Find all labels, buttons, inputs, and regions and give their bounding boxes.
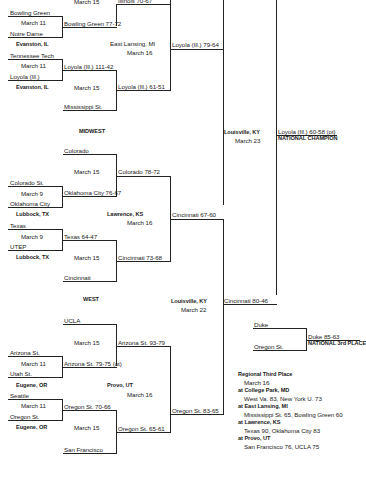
bracket-line [170, 346, 171, 432]
bracket-line [223, 304, 277, 305]
region-label-midwest: MIDWEST [79, 128, 105, 135]
bracket-line [117, 261, 171, 262]
bracket-line [8, 59, 63, 60]
game-result: Oregon St. 65-61 [118, 425, 165, 432]
regional-third-title: Regional Third Place [238, 371, 292, 378]
game-date: March 15 [74, 168, 99, 175]
game-date: March 15 [74, 424, 99, 431]
midwest-regional-site: Lawrence, KS [107, 211, 143, 218]
regional-third-result: San Francisco 76, UCLA 75 [244, 443, 319, 450]
bracket-line [63, 196, 117, 197]
game-date: March 11 [21, 402, 46, 409]
regional-third-site: at Provo, UT [238, 435, 270, 442]
bracket-line [63, 453, 117, 454]
bracket-line [170, 0, 171, 90]
game-date: March 9 [21, 233, 43, 240]
bracket-line [63, 154, 117, 155]
bracket-line [8, 16, 63, 17]
game-result: Loyola (Ill.) 111-42 [64, 63, 113, 70]
game-date: March 11 [21, 19, 46, 26]
bracket-line [8, 229, 63, 230]
team-name: Bowling Green [10, 9, 50, 16]
east-final-result: Loyola (Ill.) 79-64 [172, 41, 219, 48]
game-date: March 15 [74, 84, 99, 91]
team-name: Colorado St. [10, 179, 44, 186]
regional-third-site: at College Park, MD [238, 387, 289, 394]
bracket-line [8, 207, 63, 208]
regional-third-site: at Lawrence, KS [238, 419, 280, 426]
team-name: Utah St. [10, 370, 32, 377]
game-date: March 11 [21, 360, 46, 367]
game-result: Oregon St. 70-66 [64, 403, 111, 410]
site-label: Lubbock, TX [16, 211, 49, 218]
champ-date: March 23 [235, 137, 260, 144]
team-name: UCLA [64, 317, 80, 324]
east-r0-date: March 15 [74, 0, 99, 5]
game-result: Oklahoma City 76-67 [64, 189, 121, 196]
game-date: March 15 [74, 339, 99, 346]
bracket-line [8, 250, 63, 251]
semi-site: Louisville, KY [171, 298, 207, 305]
team-name: San Francisco [64, 446, 103, 453]
regional-third-date: March 16 [244, 379, 269, 386]
bracket-line [8, 356, 63, 357]
bracket-line [8, 399, 63, 400]
team-name: Cincinnati [64, 274, 91, 281]
site-label: Evanston, IL [16, 84, 49, 91]
team-name: Seattle [10, 392, 29, 399]
site-label: Lubbock, TX [16, 254, 49, 261]
bracket-line [63, 281, 117, 282]
champ-site: Louisville, KY [224, 129, 260, 136]
bracket-line [8, 420, 63, 421]
game-date: March 11 [21, 62, 46, 69]
regional-third-result: Texas 90, Oklahoma City 83 [244, 427, 320, 434]
bracket-line [253, 350, 307, 351]
east-regional-site: East Lansing, MI [110, 40, 155, 47]
team-name: Oregon St. [254, 343, 283, 350]
game-result: Colorado 78-72 [118, 168, 160, 175]
bracket-line [63, 367, 117, 368]
bracket-line [63, 410, 117, 411]
game-result: Cincinnati 73-68 [118, 254, 162, 261]
site-label: Eugene, OR [16, 382, 47, 389]
site-label: Eugene, OR [16, 424, 47, 431]
bracket-line [63, 27, 117, 28]
bracket-line [117, 346, 171, 347]
team-name: Mississippi St. [64, 103, 102, 110]
game-result: Arizona St. 79-75 (ot) [64, 360, 122, 367]
bracket-line [8, 186, 63, 187]
semi-date: March 22 [181, 306, 206, 313]
team-name: Oklahoma City [10, 200, 50, 207]
semi-result: Cincinnati 80-46 [224, 297, 268, 304]
game-result: Texas 64-47 [64, 233, 97, 240]
bracket-line [171, 414, 224, 415]
site-label: Evanston, IL [16, 41, 49, 48]
team-name: UTEP [10, 243, 26, 250]
regional-third-result: Mississippi St. 65, Bowling Green 60 [244, 411, 343, 418]
bracket-line [253, 328, 307, 329]
bracket-line [306, 328, 307, 350]
region-label-west: WEST [83, 296, 99, 303]
champ-result: Loyola (Ill.) 60-58 (ot) [278, 128, 336, 135]
team-name: Texas [10, 222, 26, 229]
team-name: Colorado [64, 147, 89, 154]
bracket-line [171, 49, 223, 50]
regional-third-result: West Va. 83, New York U. 73 [244, 395, 322, 402]
west-regional-date: March 16 [127, 391, 152, 398]
team-name: Duke [254, 321, 268, 328]
bracket-line [223, 219, 224, 304]
game-result: Arizona St. 93-79 [118, 339, 165, 346]
bracket-line [63, 240, 117, 241]
bracket-line [223, 304, 224, 414]
bracket-line [223, 0, 224, 205]
west-regional-site: Provo, UT [107, 382, 133, 389]
team-name: Notre Dame [10, 30, 43, 37]
bracket-line [8, 37, 63, 38]
midwest-final-result: Cincinnati 67-60 [172, 211, 216, 218]
team-name: Arizona St. [10, 349, 40, 356]
champ-label: NATIONAL CHAMPION [278, 135, 338, 142]
team-name: Loyola (Ill.) [10, 73, 40, 80]
team-name: Oregon St. [10, 413, 39, 420]
bracket-line [63, 110, 117, 111]
bracket-line [276, 0, 277, 295]
